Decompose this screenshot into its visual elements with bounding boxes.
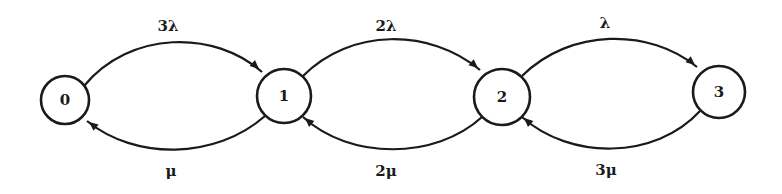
state-label: 2 xyxy=(497,88,507,106)
arc-0-to-1 xyxy=(84,42,262,86)
arc-2-to-3 xyxy=(522,39,697,76)
arc-2-to-1 xyxy=(303,117,482,149)
state-label: 0 xyxy=(60,91,70,109)
edge-label-0-to-1: 3λ xyxy=(158,17,179,35)
state-node-1: 1 xyxy=(257,69,311,123)
edge-1-to-0: μ xyxy=(87,116,265,180)
edge-1-to-2: 2λ xyxy=(303,17,481,76)
arc-1-to-2 xyxy=(303,39,480,76)
edge-label-1-to-2: 2λ xyxy=(376,17,397,35)
state-node-2: 2 xyxy=(474,69,530,125)
state-node-3: 3 xyxy=(693,66,745,118)
edge-0-to-1: 3λ xyxy=(84,17,262,86)
edge-label-1-to-0: μ xyxy=(166,162,177,180)
edge-2-to-1: 2μ xyxy=(302,115,482,180)
edge-3-to-2: 3μ xyxy=(521,111,700,179)
birth-death-state-diagram: 3λ μ 2λ 2μ λ 3μ 0 1 2 3 xyxy=(0,0,782,194)
arc-3-to-2 xyxy=(522,111,700,149)
edge-label-2-to-3: λ xyxy=(600,14,611,32)
state-node-0: 0 xyxy=(41,76,89,124)
arc-1-to-0 xyxy=(87,116,265,150)
state-label: 3 xyxy=(714,83,724,101)
edge-label-2-to-1: 2μ xyxy=(375,162,396,180)
state-label: 1 xyxy=(279,87,289,105)
edge-label-3-to-2: 3μ xyxy=(595,161,616,179)
edge-2-to-3: λ xyxy=(522,14,698,76)
